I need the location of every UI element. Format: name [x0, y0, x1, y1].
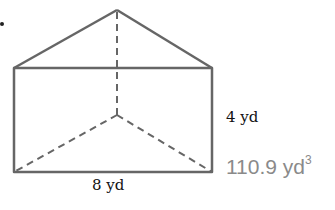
volume-exponent: 3 — [305, 153, 312, 167]
hidden-edge-left — [14, 115, 117, 172]
volume-value: 110.9 yd — [226, 155, 305, 178]
base-label: 8 yd — [92, 176, 124, 194]
edge-top-left — [14, 10, 117, 68]
hidden-edge-right — [117, 115, 212, 172]
volume-answer: 110.9 yd3 — [226, 155, 312, 179]
height-label: 4 yd — [226, 108, 258, 126]
edge-top-right — [117, 10, 212, 68]
